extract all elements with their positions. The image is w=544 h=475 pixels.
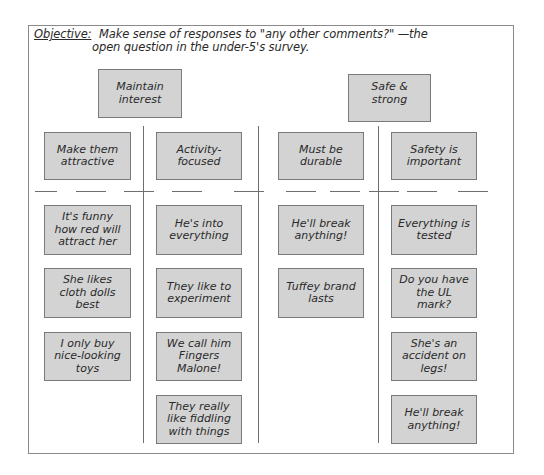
column-divider xyxy=(258,126,259,443)
objective-label: Objective: xyxy=(34,27,91,41)
group-card-safe-strong: Safe & strong xyxy=(348,74,431,122)
column-header-card: Must be durable xyxy=(278,132,364,180)
response-text: He'll break anything! xyxy=(398,407,470,432)
group-card-maintain-interest: Maintain interest xyxy=(98,69,182,118)
column-divider xyxy=(378,126,379,443)
response-card: They really like fiddling with things xyxy=(156,395,242,444)
response-text: They really like fiddling with things xyxy=(163,401,235,439)
response-card: Tuffey brand lasts xyxy=(278,268,364,318)
response-text: I only buy nice-looking toys xyxy=(51,338,124,376)
response-text: We call him Fingers Malone! xyxy=(163,338,235,376)
response-text: He's into everything xyxy=(163,218,235,243)
objective-line-1: Make sense of responses to "any other co… xyxy=(99,27,428,41)
response-text: She likes cloth dolls best xyxy=(51,274,124,312)
response-card: It's funny how red will attract her xyxy=(44,205,131,255)
objective-line-2: open question in the under-5's survey. xyxy=(34,41,454,54)
column-header-text: Must be durable xyxy=(285,144,357,169)
response-text: Tuffey brand lasts xyxy=(285,281,357,306)
group-title: Maintain interest xyxy=(105,81,175,106)
response-card: Do you have the UL mark? xyxy=(391,268,477,318)
response-card: He's into everything xyxy=(156,205,242,255)
dashed-separator-segment xyxy=(458,191,488,192)
column-header-text: Make them attractive xyxy=(51,144,124,169)
dashed-separator-segment xyxy=(286,191,316,192)
dashed-separator-segment xyxy=(330,191,360,192)
response-card: She's an accident on legs! xyxy=(391,332,477,381)
dashed-separator-segment xyxy=(172,191,202,192)
response-card: She likes cloth dolls best xyxy=(44,268,131,318)
response-text: She's an accident on legs! xyxy=(398,338,470,376)
objective-statement: Objective: Make sense of responses to "a… xyxy=(34,28,454,54)
dashed-separator-segment xyxy=(124,191,154,192)
response-card: He'll break anything! xyxy=(278,205,364,255)
dashed-separator-segment xyxy=(234,191,264,192)
column-header-card: Activity-focused xyxy=(156,132,242,180)
response-card: I only buy nice-looking toys xyxy=(44,332,131,381)
response-card: He'll break anything! xyxy=(391,395,477,444)
dashed-separator-segment xyxy=(76,191,106,192)
response-text: It's funny how red will attract her xyxy=(51,211,124,249)
response-text: They like to experiment xyxy=(163,281,235,306)
response-card: We call him Fingers Malone! xyxy=(156,332,242,381)
column-header-text: Safety is important xyxy=(398,144,470,169)
response-text: Do you have the UL mark? xyxy=(398,274,470,312)
response-card: Everything is tested xyxy=(391,205,477,255)
group-title: Safe & strong xyxy=(355,81,424,106)
column-header-text: Activity-focused xyxy=(163,144,235,169)
response-card: They like to experiment xyxy=(156,268,242,318)
dashed-separator-segment xyxy=(369,191,399,192)
dashed-separator-segment xyxy=(35,191,57,192)
response-text: Everything is tested xyxy=(398,218,470,243)
dashed-separator-segment xyxy=(407,191,437,192)
response-text: He'll break anything! xyxy=(285,218,357,243)
column-header-card: Safety is important xyxy=(391,132,477,180)
column-divider xyxy=(143,126,144,443)
column-header-card: Make them attractive xyxy=(44,132,131,180)
